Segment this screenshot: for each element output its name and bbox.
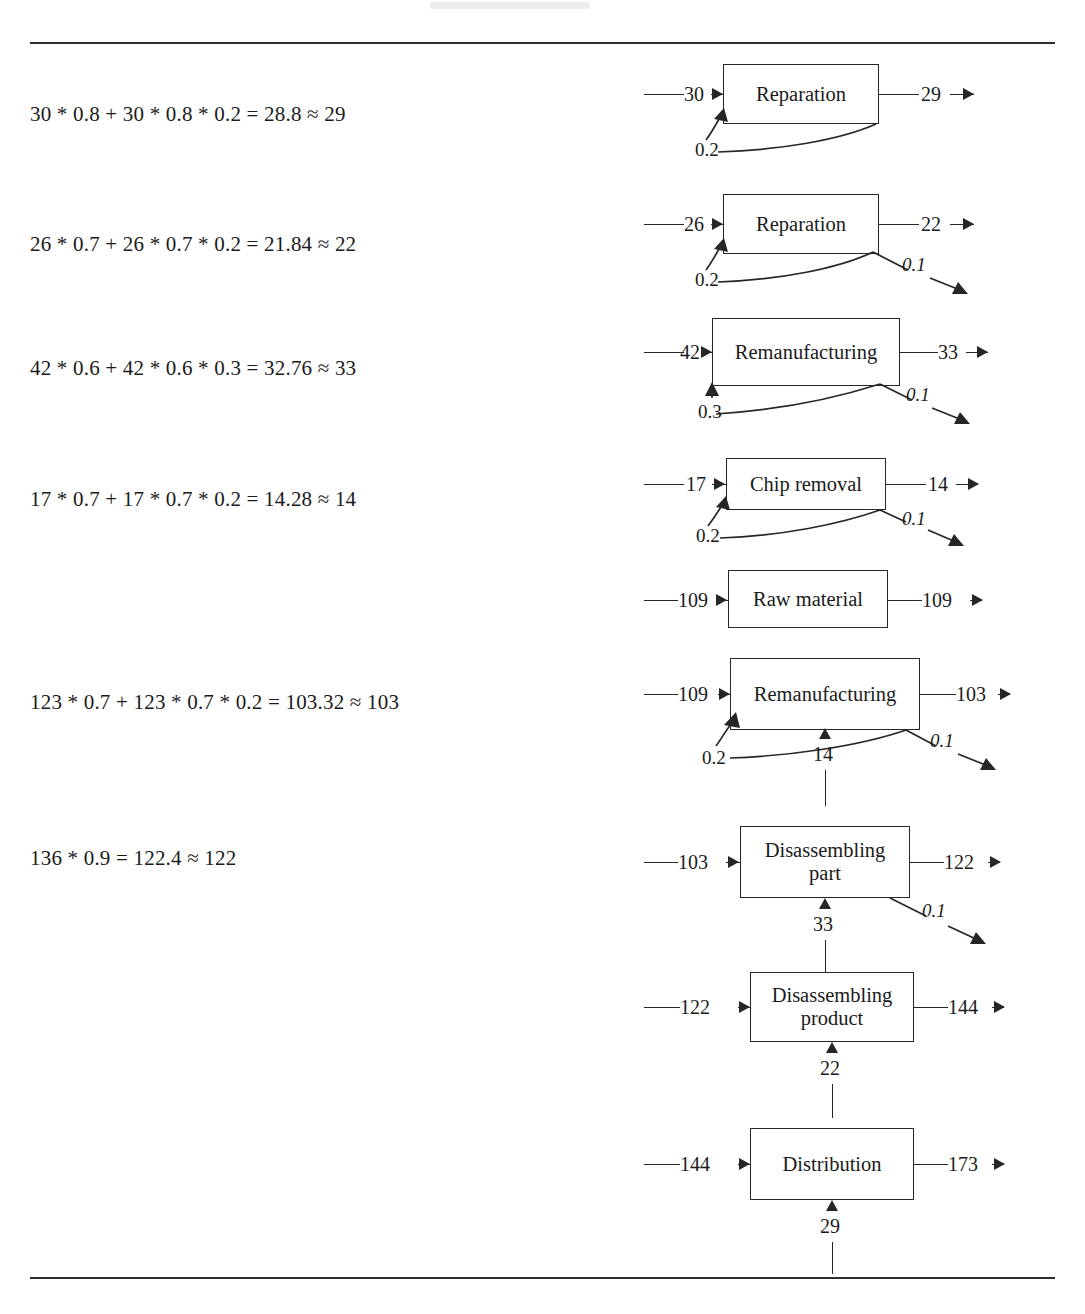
formula-chip-removal-17: 17 * 0.7 + 17 * 0.7 * 0.2 = 14.28 ≈ 14 — [30, 489, 356, 510]
output-arrowhead — [994, 1001, 1005, 1013]
output-value: 22 — [921, 214, 941, 234]
feedback-value: 0.2 — [702, 748, 726, 767]
output-value: 144 — [948, 997, 978, 1017]
output-line — [910, 862, 944, 863]
block-label: Reparation — [756, 213, 846, 236]
block-reparation-2[interactable]: Reparation — [723, 194, 879, 254]
input-value: 109 — [678, 684, 708, 704]
block-remanufacturing-2[interactable]: Remanufacturing — [730, 658, 920, 730]
block-label: Remanufacturing — [735, 341, 877, 364]
block-chip-removal[interactable]: Chip removal — [726, 458, 886, 510]
input-value: 122 — [680, 997, 710, 1017]
vertical-input-arrowhead — [819, 898, 831, 909]
block-label-line-1: Disassembling — [765, 839, 886, 862]
output-arrowhead — [963, 88, 974, 100]
input-line — [644, 1007, 680, 1008]
output-arrowhead — [977, 346, 988, 358]
input-arrowhead — [701, 346, 712, 358]
block-label: Raw material — [753, 588, 863, 611]
block-label: Reparation — [756, 83, 846, 106]
output-value: 103 — [956, 684, 986, 704]
vertical-input-arrowhead — [826, 1042, 838, 1053]
vertical-input-line — [832, 1242, 833, 1274]
input-value: 30 — [684, 84, 704, 104]
top-rule — [30, 42, 1055, 44]
block-disassembling-part[interactable]: Disassembling part — [740, 826, 910, 898]
block-remanufacturing-1[interactable]: Remanufacturing — [712, 318, 900, 386]
loss-value: 0.1 — [930, 730, 954, 752]
input-line — [644, 352, 684, 353]
block-reparation-1[interactable]: Reparation — [723, 64, 879, 124]
output-value: 109 — [922, 590, 952, 610]
output-arrowhead — [972, 594, 983, 606]
vertical-input-value: 29 — [820, 1216, 840, 1236]
formula-disassembling-136: 136 * 0.9 = 122.4 ≈ 122 — [30, 848, 236, 869]
input-value: 42 — [680, 342, 700, 362]
output-value: 14 — [928, 474, 948, 494]
input-arrowhead — [714, 478, 725, 490]
input-line — [644, 862, 678, 863]
block-label-line-1: Disassembling — [772, 984, 893, 1007]
vertical-input-value: 14 — [813, 744, 833, 764]
output-line — [900, 352, 938, 353]
bottom-rule — [30, 1277, 1055, 1279]
output-line — [886, 484, 926, 485]
diagram-page: 30 * 0.8 + 30 * 0.8 * 0.2 = 28.8 ≈ 29 26… — [0, 0, 1085, 1314]
formula-remanufacturing-123: 123 * 0.7 + 123 * 0.7 * 0.2 = 103.32 ≈ 1… — [30, 692, 399, 713]
output-value: 122 — [944, 852, 974, 872]
formula-reparation-30: 30 * 0.8 + 30 * 0.8 * 0.2 = 28.8 ≈ 29 — [30, 104, 346, 125]
vertical-input-line — [825, 770, 826, 806]
formula-reparation-26: 26 * 0.7 + 26 * 0.7 * 0.2 = 21.84 ≈ 22 — [30, 234, 356, 255]
input-value: 103 — [678, 852, 708, 872]
input-arrowhead — [739, 1158, 750, 1170]
block-raw-material[interactable]: Raw material — [728, 570, 888, 628]
input-arrowhead — [728, 856, 739, 868]
block-distribution[interactable]: Distribution — [750, 1128, 914, 1200]
block-label: Remanufacturing — [754, 683, 896, 706]
vertical-input-line — [825, 940, 826, 974]
output-line — [879, 224, 919, 225]
input-arrowhead — [712, 218, 723, 230]
input-line — [644, 600, 678, 601]
output-arrowhead — [990, 856, 1001, 868]
input-value: 17 — [686, 474, 706, 494]
output-value: 173 — [948, 1154, 978, 1174]
input-arrowhead — [739, 1001, 750, 1013]
feedback-value: 0.3 — [698, 402, 722, 421]
output-arrowhead — [968, 478, 979, 490]
input-value: 109 — [678, 590, 708, 610]
block-disassembling-product[interactable]: Disassembling product — [750, 972, 914, 1042]
output-line — [914, 1007, 948, 1008]
formula-remanufacturing-42: 42 * 0.6 + 42 * 0.6 * 0.3 = 32.76 ≈ 33 — [30, 358, 356, 379]
vertical-input-value: 33 — [813, 914, 833, 934]
vertical-input-line — [832, 1084, 833, 1118]
feedback-value: 0.2 — [695, 270, 719, 289]
block-label-line-2: product — [801, 1007, 864, 1030]
input-arrowhead — [719, 688, 730, 700]
input-arrowhead — [712, 88, 723, 100]
output-line — [920, 694, 956, 695]
input-line — [644, 484, 684, 485]
vertical-input-value: 22 — [820, 1058, 840, 1078]
block-label-line-2: part — [809, 862, 841, 885]
vertical-input-arrowhead — [826, 1200, 838, 1211]
loss-value: 0.1 — [902, 254, 926, 276]
block-label: Distribution — [782, 1153, 881, 1176]
output-line — [879, 94, 919, 95]
input-line — [644, 694, 678, 695]
loss-value: 0.1 — [922, 900, 946, 922]
loss-value: 0.1 — [902, 508, 926, 530]
output-arrowhead — [994, 1158, 1005, 1170]
output-value: 29 — [921, 84, 941, 104]
output-arrowhead — [963, 218, 974, 230]
input-line — [644, 1164, 680, 1165]
scan-artifact — [430, 2, 590, 9]
input-line — [644, 94, 684, 95]
output-line — [914, 1164, 948, 1165]
block-label: Chip removal — [750, 473, 862, 496]
output-value: 33 — [938, 342, 958, 362]
output-arrowhead — [1000, 688, 1011, 700]
vertical-input-arrowhead — [819, 728, 831, 739]
input-value: 144 — [680, 1154, 710, 1174]
input-arrowhead — [716, 594, 727, 606]
